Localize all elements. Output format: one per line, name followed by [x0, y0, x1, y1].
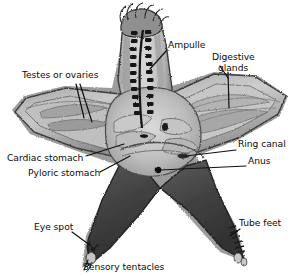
label-anus: Anus: [248, 156, 271, 167]
label-tube-feet: Tube feet: [239, 218, 281, 229]
label-digestive-glands-line2: glands: [212, 63, 255, 74]
label-eye-spot: Eye spot: [34, 222, 73, 233]
label-digestive-glands-line1: Digestive: [212, 51, 255, 62]
disc-dark-mark: [140, 134, 148, 138]
sea-star-anatomy-figure: Ampulle Digestive glands Testes or ovari…: [0, 0, 300, 276]
label-cardiac-stomach: Cardiac stomach: [7, 153, 83, 164]
label-digestive-glands: Digestive glands: [212, 52, 255, 73]
label-sensory-tentacles: Sensory tentacles: [83, 262, 164, 273]
label-ring-canal: Ring canal: [238, 139, 286, 150]
label-pyloric-stomach: Pyloric stomach: [28, 168, 100, 179]
tube-feet-tips: [234, 253, 247, 266]
madreporite: [162, 123, 168, 131]
eye-spot: [91, 247, 95, 251]
label-testes-or-ovaries: Testes or ovaries: [22, 70, 98, 81]
label-ampulle: Ampulle: [168, 40, 205, 51]
